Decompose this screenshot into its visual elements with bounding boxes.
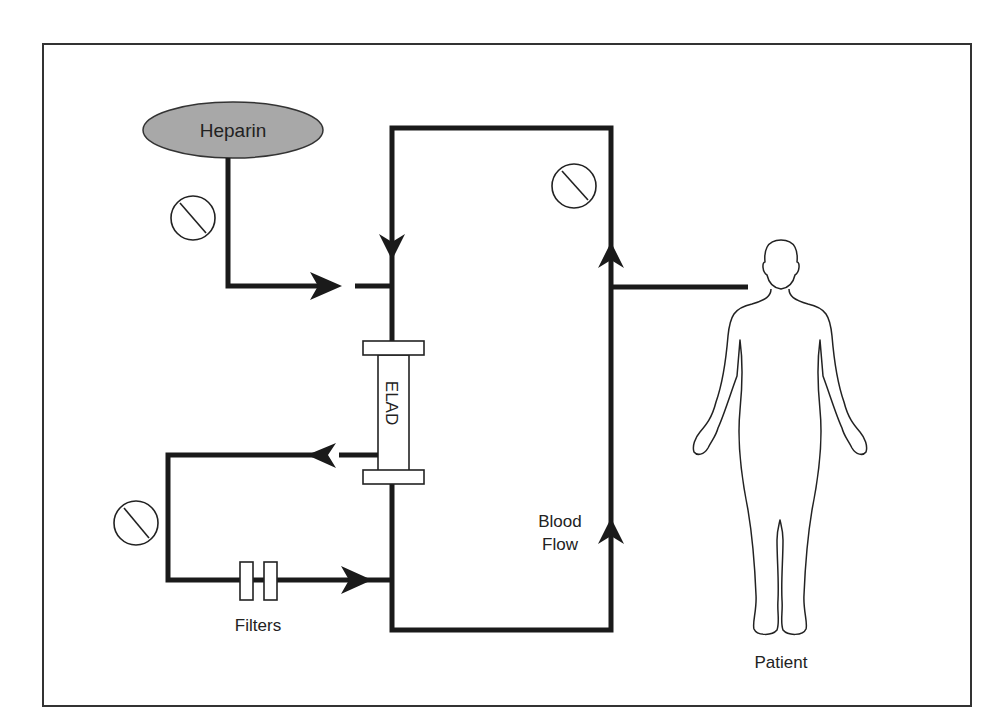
blood-flow-label-line1: Blood [538,512,581,531]
pump-icon [171,196,215,240]
blood-flow-label-line2: Flow [542,535,579,554]
patient-label: Patient [755,653,808,672]
heparin-line [228,158,392,286]
patient-figure-icon [693,240,866,634]
filters-label: Filters [235,616,281,635]
heparin-label: Heparin [200,120,267,141]
filter-loop [168,455,392,580]
arrow-left-icon [307,443,336,468]
pump-icon [114,501,158,545]
pump-icon [552,164,596,208]
elad-label: ELAD [382,381,401,425]
main-circuit [392,128,748,630]
elad-circuit-diagram: Heparin ELAD [0,0,994,728]
heparin-reservoir: Heparin [143,102,323,158]
